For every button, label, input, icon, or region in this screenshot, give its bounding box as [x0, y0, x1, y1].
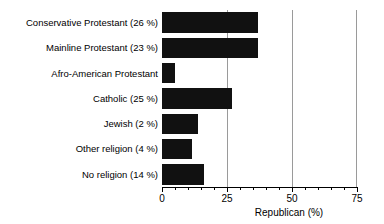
x-tick-0	[162, 187, 163, 192]
x-tick-label-0: 0	[159, 193, 165, 205]
bar-row-label: Jewish (2 %)	[104, 111, 162, 136]
x-minor-tick	[266, 187, 267, 190]
x-minor-tick	[201, 187, 202, 190]
bar	[162, 88, 232, 108]
x-tick-75	[357, 187, 358, 192]
bar	[162, 63, 175, 83]
bar-row: Jewish (2 %)	[0, 111, 384, 136]
x-minor-tick	[318, 187, 319, 190]
x-minor-tick	[175, 187, 176, 190]
bar	[162, 38, 258, 58]
x-minor-tick	[331, 187, 332, 190]
bar	[162, 164, 204, 184]
x-tick-50	[292, 187, 293, 192]
bar-row: Mainline Protestant (23 %)	[0, 35, 384, 60]
x-minor-tick	[214, 187, 215, 190]
bar	[162, 12, 258, 32]
x-minor-tick	[344, 187, 345, 190]
x-axis-title: Republican (%)	[255, 207, 323, 218]
bar-row: Afro-American Protestant	[0, 61, 384, 86]
bar	[162, 139, 192, 159]
x-tick-25	[227, 187, 228, 192]
bar-row-label: Catholic (25 %)	[93, 86, 162, 111]
x-minor-tick	[188, 187, 189, 190]
bar-row: No religion (14 %)	[0, 162, 384, 187]
bar-row: Catholic (25 %)	[0, 86, 384, 111]
bar-row: Other religion (4 %)	[0, 136, 384, 161]
bar	[162, 114, 198, 134]
x-minor-tick	[253, 187, 254, 190]
bar-chart: Conservative Protestant (26 %)Mainline P…	[0, 0, 384, 224]
x-minor-tick	[279, 187, 280, 190]
x-axis-line	[162, 187, 357, 188]
bar-row-label: Other religion (4 %)	[76, 136, 162, 161]
bar-row-label: Conservative Protestant (26 %)	[26, 10, 162, 35]
bar-rows: Conservative Protestant (26 %)Mainline P…	[0, 10, 384, 187]
x-minor-tick	[305, 187, 306, 190]
x-tick-label-25: 25	[221, 193, 232, 205]
x-tick-label-50: 50	[286, 193, 297, 205]
bar-row-label: Mainline Protestant (23 %)	[46, 35, 162, 60]
bar-row-label: No religion (14 %)	[82, 162, 162, 187]
x-tick-label-75: 75	[351, 193, 362, 205]
bar-row-label: Afro-American Protestant	[51, 61, 162, 86]
x-axis-title-wrap: Republican (%)	[0, 207, 384, 219]
x-minor-tick	[240, 187, 241, 190]
bar-row: Conservative Protestant (26 %)	[0, 10, 384, 35]
